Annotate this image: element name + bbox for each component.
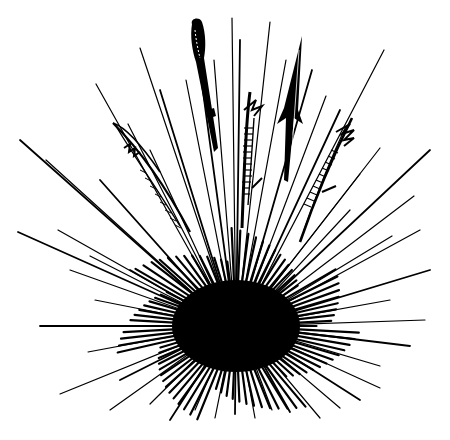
sea-urchin-illustration bbox=[0, 0, 450, 440]
ornate-spine-arrow bbox=[277, 36, 303, 182]
urchin-body bbox=[172, 280, 300, 372]
ornate-spine-left bbox=[113, 123, 190, 232]
urchin-drawing bbox=[0, 0, 450, 440]
ornate-spine-top bbox=[191, 18, 218, 152]
